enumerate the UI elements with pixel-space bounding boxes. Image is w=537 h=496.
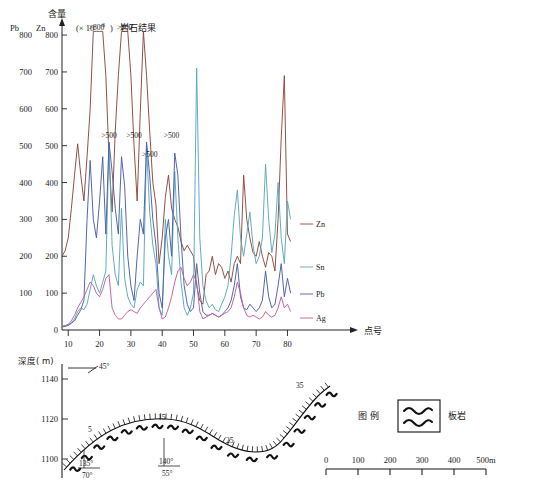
series-legend-callouts: Zn Sn Pb Ag <box>300 220 326 323</box>
terrain-hatch-tick <box>247 446 248 451</box>
figure-svg: 含量 (× 10 -6 ) 岩石结果 Pb Zn 830 80070060050… <box>0 0 537 496</box>
terrain-hatch-tick <box>139 415 140 420</box>
pb-tick-group: 800700600500400300200100 <box>19 30 32 298</box>
terrain-hatch-tick <box>237 443 239 448</box>
x-axis-label: 点号 <box>364 326 382 336</box>
threshold-annotation: >800 <box>117 23 133 32</box>
scale-tick-label: 200 <box>384 455 397 465</box>
x-tick-group: 1020304050607080 <box>64 330 292 349</box>
legend-title: 图 例 <box>358 410 379 421</box>
terrain-hatch-tick <box>289 422 293 425</box>
figure-root: 含量 (× 10 -6 ) 岩石结果 Pb Zn 830 80070060050… <box>0 0 537 496</box>
depth-tick-group: 114011201100 <box>41 374 68 464</box>
x-tick-label: 40 <box>158 339 167 349</box>
terrain-hatch-tick <box>286 427 290 430</box>
pb-tick-label: 700 <box>19 67 32 77</box>
slate-wave-mark <box>295 429 305 433</box>
terrain-hatch-tick <box>277 438 281 442</box>
slate-wave-mark <box>168 426 178 430</box>
terrain-hatch-tick <box>313 394 317 398</box>
pb-tick-label: 100 <box>19 288 32 298</box>
top-panel-chart: 含量 (× 10 -6 ) 岩石结果 Pb Zn 830 80070060050… <box>10 8 382 349</box>
terrain-hatch-tick <box>186 418 188 423</box>
pb-axis-ticklabels: 830 <box>10 47 23 57</box>
terrain-hatch-tick <box>283 431 287 434</box>
terrain-hatch-tick <box>321 386 324 390</box>
series-line-sn <box>62 68 291 326</box>
attitude-2-strike: 140° <box>159 457 173 466</box>
scale-tick-label: 100 <box>352 455 365 465</box>
x-tick-label: 60 <box>221 339 230 349</box>
pb-tick-label: 800 <box>19 30 32 40</box>
terrain-hatch-tick <box>266 445 268 450</box>
terrain-hatch-tick <box>99 431 102 436</box>
depth-axis-label: 深度( m) <box>18 356 54 366</box>
terrain-hatch-tick <box>325 383 328 387</box>
zn-tick-label: 0 <box>54 325 58 335</box>
attitude-annotation-2: 140° 55° <box>158 438 180 478</box>
attitude-1-dip: 70° <box>82 471 93 480</box>
station-label-5: 5 <box>88 425 92 434</box>
y-axis-arrow <box>59 18 65 26</box>
terrain-hatch-tick <box>70 456 74 460</box>
bottom-panel-cross-section: 深度( m) 114011201100 45° 5 15 25 35 135° … <box>18 356 496 480</box>
terrain-hatch-tick <box>144 414 145 419</box>
left-axis-name: Pb <box>10 23 19 33</box>
slate-wave-mark <box>284 443 294 447</box>
attitude-2-dip: 55° <box>162 469 173 478</box>
x-tick-label: 70 <box>252 339 261 349</box>
terrain-hatch-tick <box>171 414 172 419</box>
x-axis-arrow <box>350 327 358 333</box>
legend-item-label: 板岩 <box>448 410 466 421</box>
threshold-annotation: >500 <box>126 131 142 140</box>
depth-tick-label: 1100 <box>41 454 58 464</box>
slate-wave-mark <box>183 430 193 434</box>
zn-tick-label: 300 <box>45 214 58 224</box>
slate-wave-layer <box>70 393 336 471</box>
terrain-hatch-tick <box>209 429 212 434</box>
threshold-annotation-layer: >800>800>500>500>500>500 <box>89 23 180 159</box>
terrain-hatch-layer <box>63 383 329 467</box>
terrain-hatch-tick <box>280 434 284 438</box>
slate-wave-mark <box>327 393 337 397</box>
terrain-hatch-tick <box>191 419 193 424</box>
threshold-annotation: >500 <box>142 150 158 159</box>
terrain-hatch-tick <box>305 402 309 406</box>
station-label-15: 15 <box>158 413 166 422</box>
terrain-hatch-tick <box>94 434 97 438</box>
depth-tick-label: 1140 <box>41 374 58 384</box>
terrain-hatch-tick <box>78 448 82 452</box>
station-label-25: 25 <box>226 436 234 445</box>
zn-tick-label: 800 <box>45 30 58 40</box>
zn-tick-label: 100 <box>45 288 58 298</box>
terrain-hatch-tick <box>63 463 67 467</box>
slate-wave-mark <box>247 458 257 462</box>
slate-band <box>63 383 337 471</box>
pb-tick-label: 200 <box>19 251 32 261</box>
pb-tick-label: 300 <box>19 214 32 224</box>
dip-symbol-label: 45° <box>99 362 110 371</box>
terrain-hatch-tick <box>302 406 306 409</box>
zn-tick-group: 8007006005004003002001000 <box>45 30 67 335</box>
terrain-hatch-tick <box>262 446 263 451</box>
scale-tick-label: 400 <box>448 455 461 465</box>
x-tick-label: 20 <box>95 339 104 349</box>
pb-tick-label: 400 <box>19 178 32 188</box>
attitude-annotation-1: 135° 70° <box>78 450 100 480</box>
slate-wave-mark <box>228 453 238 457</box>
unit-close-paren: ) <box>110 23 113 33</box>
terrain-hatch-tick <box>103 429 106 434</box>
threshold-annotation: >800 <box>89 23 105 32</box>
slate-wave-mark <box>107 437 117 441</box>
slate-wave-mark <box>305 416 315 420</box>
scale-bar: 0100200300400500m <box>324 455 496 475</box>
slate-wave-mark <box>197 437 207 441</box>
legend-symbol-box <box>398 400 440 432</box>
terrain-hatch-tick <box>134 416 135 421</box>
slate-wave-mark <box>137 426 147 430</box>
slate-wave-mark <box>122 430 132 434</box>
zn-tick-label: 400 <box>45 178 58 188</box>
scale-tick-label: 300 <box>416 455 429 465</box>
terrain-hatch-tick <box>113 423 115 428</box>
terrain-hatch-tick <box>128 418 130 423</box>
